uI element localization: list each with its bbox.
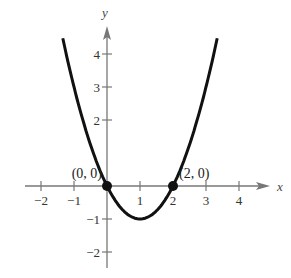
axis-ticks: −2−11234−2−1234 <box>34 47 243 260</box>
x-tick-label: 4 <box>236 193 243 208</box>
x-tick-label: −2 <box>34 193 48 208</box>
y-tick-label: 4 <box>94 47 101 62</box>
point-label: (0, 0) <box>72 166 103 182</box>
intercept-point <box>168 181 178 191</box>
point-label: (2, 0) <box>179 166 210 182</box>
y-tick-label: −2 <box>86 245 100 260</box>
y-tick-label: 3 <box>94 80 101 95</box>
x-tick-label: −1 <box>67 193 81 208</box>
parabola-chart: xy −2−11234−2−1234 (0, 0)(2, 0) <box>0 0 291 278</box>
x-tick-label: 2 <box>170 193 177 208</box>
y-tick-label: −1 <box>86 212 100 227</box>
y-tick-label: 2 <box>94 113 101 128</box>
intercept-points: (0, 0)(2, 0) <box>72 166 210 191</box>
x-tick-label: 1 <box>137 193 144 208</box>
y-axis-label: y <box>100 5 108 20</box>
x-axis-label: x <box>276 179 283 194</box>
intercept-point <box>102 181 112 191</box>
parabola-curve <box>63 38 217 219</box>
x-tick-label: 3 <box>203 193 210 208</box>
